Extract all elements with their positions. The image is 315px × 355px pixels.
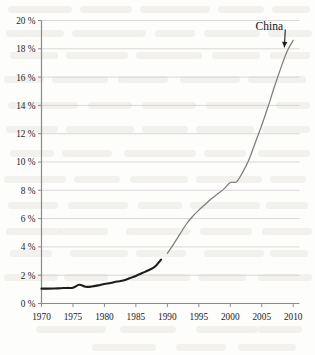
y-tick-label-6: 6 %	[21, 214, 36, 224]
annotation-label-china: China	[256, 20, 283, 32]
y-tick-label-10: 10 %	[16, 157, 36, 167]
y-tick-label-12: 12 %	[16, 129, 36, 139]
x-tick-label-2005: 2005	[252, 312, 271, 322]
x-tick-label-1990: 1990	[158, 312, 177, 322]
x-tick-label-1975: 1975	[64, 312, 83, 322]
y-tick-label-8: 8 %	[21, 186, 36, 196]
chart-canvas: 0 %2 %4 %6 %8 %10 %12 %14 %16 %18 %20 %1…	[0, 0, 315, 355]
y-tick-label-2: 2 %	[21, 271, 36, 281]
x-tick-label-1980: 1980	[95, 312, 114, 322]
x-tick-label-1985: 1985	[127, 312, 146, 322]
series-line-early	[42, 260, 162, 289]
gridlines-group	[42, 21, 300, 276]
annotations-group: China	[256, 20, 288, 47]
x-tick-label-1970: 1970	[32, 312, 51, 322]
x-tick-label-2010: 2010	[284, 312, 303, 322]
y-tick-label-20: 20 %	[16, 16, 36, 26]
x-tick-label-1995: 1995	[190, 312, 209, 322]
x-tick-label-2000: 2000	[221, 312, 240, 322]
tick-labels-group: 0 %2 %4 %6 %8 %10 %12 %14 %16 %18 %20 %1…	[16, 16, 303, 322]
y-tick-label-18: 18 %	[16, 44, 36, 54]
china-share-line-chart: 0 %2 %4 %6 %8 %10 %12 %14 %16 %18 %20 %1…	[0, 0, 315, 355]
y-tick-label-14: 14 %	[16, 101, 36, 111]
y-tick-label-4: 4 %	[21, 242, 36, 252]
annotation-arrow-head	[282, 42, 287, 48]
axes-group	[38, 21, 300, 308]
y-tick-label-16: 16 %	[16, 73, 36, 83]
data-series-group	[42, 40, 294, 288]
y-tick-label-0: 0 %	[21, 299, 36, 309]
series-line-late	[167, 40, 293, 253]
